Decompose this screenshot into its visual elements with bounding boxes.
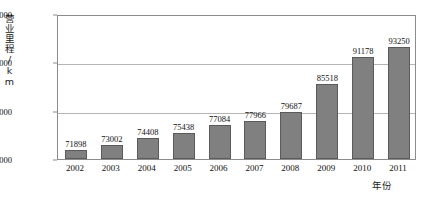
bar bbox=[101, 145, 123, 160]
bar bbox=[65, 150, 87, 159]
bar-chart: 营业里程/km 700008000090000100000 7189873002… bbox=[0, 0, 432, 201]
bar-value-label: 93250 bbox=[376, 36, 422, 46]
bar-value-label: 91178 bbox=[340, 46, 386, 56]
x-axis-tick-label: 2011 bbox=[375, 163, 421, 173]
x-axis-title: 年份 bbox=[372, 178, 392, 192]
y-axis-tick-label: 70000 bbox=[0, 155, 12, 165]
bar bbox=[352, 57, 374, 159]
bar-value-label: 85518 bbox=[304, 73, 350, 83]
bar bbox=[280, 112, 302, 159]
bar bbox=[209, 125, 231, 159]
bar bbox=[388, 47, 410, 159]
bar bbox=[173, 133, 195, 159]
bar-value-label: 79687 bbox=[268, 101, 314, 111]
bar bbox=[316, 84, 338, 159]
bar bbox=[244, 121, 266, 160]
y-axis-tick-label: 90000 bbox=[0, 58, 12, 68]
plot-area: 7189873002744087543877084779667968785518… bbox=[57, 15, 416, 160]
y-axis-tick-label: 80000 bbox=[0, 107, 12, 117]
y-axis-tick-label: 100000 bbox=[0, 10, 12, 20]
bar bbox=[137, 138, 159, 159]
